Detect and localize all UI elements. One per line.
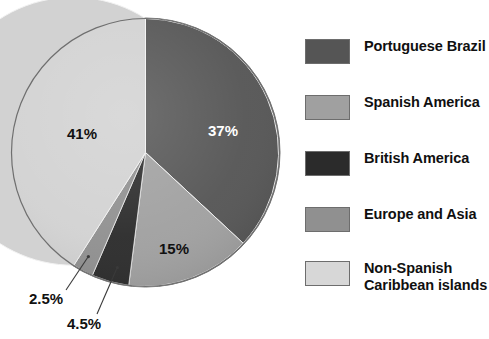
legend-swatch-portuguese-brazil: [305, 39, 350, 64]
legend-swatch-europe-and-asia: [305, 207, 350, 232]
legend-swatch-british-america: [305, 151, 350, 176]
pie-label-europe-and-asia: 2.5%: [29, 290, 63, 307]
leader-dot-british-america: [116, 266, 119, 269]
legend-item-spanish-america[interactable]: Spanish America: [305, 94, 489, 120]
legend-label-spanish-america: Spanish America: [364, 94, 480, 111]
pie-chart-plot-area: 37% 15% 41% 2.5% 4.5%: [0, 0, 292, 339]
pie-chart-figure: 37% 15% 41% 2.5% 4.5% Portuguese Brazil …: [0, 0, 489, 339]
legend-swatch-spanish-america: [305, 95, 350, 120]
legend-item-portuguese-brazil[interactable]: Portuguese Brazil: [305, 38, 489, 64]
pie-svg: 37% 15% 41% 2.5% 4.5%: [0, 0, 292, 339]
legend-label-non-spanish-caribbean: Non-Spanish Caribbean islands: [364, 260, 487, 294]
leader-dot-europe-and-asia: [87, 255, 90, 258]
legend-label-europe-and-asia: Europe and Asia: [364, 206, 476, 223]
legend-item-non-spanish-caribbean[interactable]: Non-Spanish Caribbean islands: [305, 260, 489, 294]
legend-item-europe-and-asia[interactable]: Europe and Asia: [305, 206, 489, 232]
pie-label-non-spanish-caribbean: 41%: [67, 125, 97, 142]
pie-shading-overlay: [12, 19, 280, 287]
legend-swatch-non-spanish-caribbean: [305, 261, 350, 286]
chart-legend: Portuguese Brazil Spanish America Britis…: [305, 38, 489, 290]
pie-label-british-america: 4.5%: [67, 315, 101, 332]
legend-label-british-america: British America: [364, 150, 469, 167]
pie-label-portuguese-brazil: 37%: [208, 122, 238, 139]
legend-label-portuguese-brazil: Portuguese Brazil: [364, 38, 486, 55]
pie-label-spanish-america: 15%: [159, 240, 189, 257]
legend-item-british-america[interactable]: British America: [305, 150, 489, 176]
